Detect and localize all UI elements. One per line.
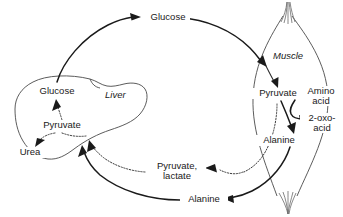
liver-notch-line	[90, 79, 100, 88]
flow-liver-pyruvate-junction	[62, 133, 86, 136]
label-amino-acid-line2: acid	[312, 95, 329, 106]
flow-blood-pyruvate-lactate-to-liver	[92, 146, 145, 172]
muscle-top-fibers	[281, 2, 295, 24]
label-amino-acid: Amino acid	[300, 86, 342, 106]
arrowhead-alanine-muscle	[287, 122, 296, 134]
flow-muscle-alanine-to-blood	[232, 147, 290, 198]
label-liver-glucose: Glucose	[30, 86, 84, 97]
glucose-alanine-cycle-diagram: Glucose Glucose Liver Pyruvate Urea Musc…	[0, 0, 343, 217]
flow-liver-glucose-to-blood	[57, 17, 133, 82]
diagram-canvas	[0, 0, 343, 217]
label-liver-organ: Liver	[104, 90, 127, 101]
arrowhead-to-top-glucose	[130, 13, 141, 21]
label-liver-urea: Urea	[14, 147, 46, 158]
label-pyruvate-lactate-line2: lactate	[163, 170, 191, 181]
arrowhead-blood-pyruvate-lactate	[205, 164, 217, 173]
label-blood-alanine: Alanine	[180, 194, 228, 205]
label-blood-pyruvate-lactate: Pyruvate, lactate	[148, 161, 206, 181]
label-blood-glucose: Glucose	[146, 12, 190, 23]
flow-blood-pyruvate-lactate-segment	[220, 170, 243, 174]
label-oxo-acid-line2: acid	[313, 122, 330, 133]
muscle-bottom-fibers	[279, 191, 296, 214]
flow-pyruvate-to-alanine-muscle	[281, 101, 292, 128]
muscle-outline-right	[292, 16, 328, 196]
label-muscle-alanine: Alanine	[254, 135, 304, 146]
label-muscle-pyruvate: Pyruvate	[250, 88, 306, 99]
arrowhead-liver-pyruvate-from-lactate	[87, 140, 96, 152]
label-muscle-organ: Muscle	[272, 51, 304, 62]
label-oxo-acid: 2-oxo- acid	[300, 113, 343, 133]
label-liver-pyruvate: Pyruvate	[34, 120, 90, 131]
arrowhead-liver-glucose	[52, 99, 61, 111]
flow-blood-glucose-to-muscle	[180, 18, 261, 61]
